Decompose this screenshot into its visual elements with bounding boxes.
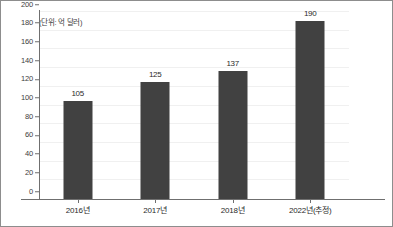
x-axis-tick-mark	[78, 199, 79, 203]
y-axis-tick-label: 0	[29, 188, 33, 196]
bar[interactable]: 125	[141, 82, 170, 199]
y-axis-tick: 80	[25, 113, 39, 121]
y-axis-tick-mark	[35, 172, 39, 173]
x-axis-tick-mark	[155, 199, 156, 203]
bar-value-label: 190	[304, 10, 317, 18]
bar-value-label: 125	[149, 71, 162, 79]
x-axis-slot: 2017년	[117, 199, 195, 227]
x-axis-ticks: 2016년2017년2018년2022년(추정)	[39, 199, 349, 227]
y-axis-tick: 100	[21, 94, 39, 102]
y-axis-tick-label: 60	[25, 132, 33, 140]
bar-slot: 125	[117, 12, 195, 199]
y-axis-tick-mark	[35, 116, 39, 117]
y-axis-tick-mark	[35, 154, 39, 155]
y-axis-tick: 40	[25, 150, 39, 158]
y-axis-tick-mark	[35, 60, 39, 61]
bar-slot: 190	[272, 12, 350, 199]
bar-slot: 105	[39, 12, 117, 199]
y-axis-tick-label: 160	[21, 38, 33, 46]
x-axis-tick-label: 2018년	[221, 207, 245, 215]
y-axis-tick: 60	[25, 132, 39, 140]
y-axis-tick: 0	[29, 188, 39, 196]
y-axis-tick-mark	[35, 41, 39, 42]
x-axis-tick-mark	[310, 199, 311, 203]
bar[interactable]: 105	[63, 101, 92, 199]
bar-value-label: 105	[71, 90, 84, 98]
y-axis-tick: 180	[21, 19, 39, 27]
y-axis-tick-label: 20	[25, 169, 33, 177]
y-axis-tick-mark	[35, 98, 39, 99]
y-axis-tick: 200	[21, 1, 39, 9]
y-axis-ticks: 200180160140120100806040200	[1, 12, 39, 199]
x-axis-tick-mark	[233, 199, 234, 203]
bar-chart: (단위: 억 달러) 105125137190 2001801601401201…	[0, 0, 393, 227]
y-axis-tick-label: 140	[21, 57, 33, 65]
y-axis-tick-mark	[35, 23, 39, 24]
y-axis-tick-mark	[35, 4, 39, 5]
bar[interactable]: 190	[296, 21, 325, 199]
y-axis-tick-label: 180	[21, 19, 33, 27]
x-axis-slot: 2018년	[194, 199, 272, 227]
y-axis-tick: 20	[25, 169, 39, 177]
y-axis-tick-label: 40	[25, 150, 33, 158]
y-axis-tick-label: 120	[21, 76, 33, 84]
y-axis-tick-label: 200	[21, 1, 33, 9]
y-axis-tick-label: 100	[21, 94, 33, 102]
bar[interactable]: 137	[218, 71, 247, 199]
x-axis-tick-label: 2017년	[143, 207, 167, 215]
y-axis-tick: 120	[21, 76, 39, 84]
y-axis-tick-mark	[35, 79, 39, 80]
x-axis-slot: 2016년	[39, 199, 117, 227]
y-axis-tick-mark	[35, 135, 39, 136]
plot-area: 105125137190	[39, 12, 349, 199]
y-axis-tick: 140	[21, 57, 39, 65]
y-axis-tick-mark	[35, 191, 39, 192]
y-axis-tick: 160	[21, 38, 39, 46]
y-axis-line	[39, 10, 40, 199]
x-axis-tick-label: 2022년(추정)	[289, 207, 331, 215]
x-axis-slot: 2022년(추정)	[272, 199, 350, 227]
bar-slot: 137	[194, 12, 272, 199]
bar-value-label: 137	[226, 60, 239, 68]
y-axis-tick-label: 80	[25, 113, 33, 121]
x-axis-tick-label: 2016년	[66, 207, 90, 215]
